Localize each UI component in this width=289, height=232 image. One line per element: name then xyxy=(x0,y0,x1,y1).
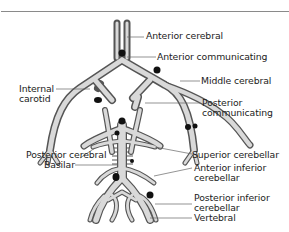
aneurysm-pica xyxy=(147,192,154,199)
label-superior-cerebellar: Superior cerebellar xyxy=(192,150,279,160)
label-basilar: Basilar xyxy=(44,160,75,170)
aneurysm-acom xyxy=(119,50,126,57)
aneurysm-vertebral xyxy=(113,173,120,181)
label-anterior-cerebral: Anterior cerebral xyxy=(146,31,223,41)
label-anterior-communicating: Anterior communicating xyxy=(157,52,267,62)
label-vertebral: Vertebral xyxy=(194,213,236,223)
aneurysm-mca xyxy=(154,67,161,74)
aneurysm-pcom-right xyxy=(185,124,191,130)
label-posterior-communicating-2: communicating xyxy=(202,108,273,118)
label-internal-carotid-2: carotid xyxy=(19,94,51,104)
aneurysm-basilar-tip xyxy=(119,118,126,125)
label-anterior-inferior-cerebellar-2: cerebellar xyxy=(194,173,239,183)
aneurysm-aica xyxy=(130,159,134,163)
label-middle-cerebral: Middle cerebral xyxy=(201,76,271,86)
aneurysm-sca xyxy=(115,131,120,136)
aneurysm-pcom-right-2 xyxy=(193,124,198,129)
aneurysm-ica xyxy=(94,97,102,103)
